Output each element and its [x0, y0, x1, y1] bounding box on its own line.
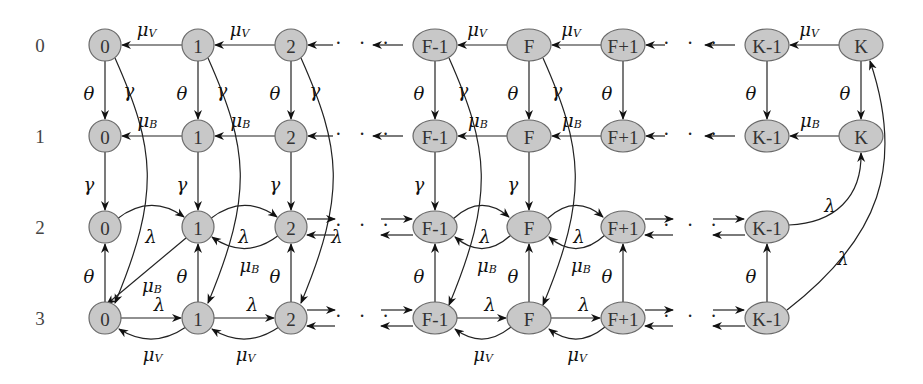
rate-label-mu-v: μV: [236, 344, 257, 365]
rate-label-lambda: λ: [246, 294, 258, 315]
rate-label-theta: θ: [508, 266, 519, 287]
state-node-0-kminus1: K-1: [745, 29, 789, 61]
rate-label-theta: θ: [177, 266, 188, 287]
state-node-3-fplus1: F+1: [601, 302, 645, 334]
state-node-2-fplus1: F+1: [601, 211, 645, 243]
node-label: 1: [193, 127, 203, 148]
node-label: F: [524, 309, 535, 330]
edge-mu-v-row3: [455, 327, 511, 339]
rate-label-mu-v: μV: [143, 344, 164, 365]
nodes-layer: 012F-1FF+1K-1K012F-1FF+1K-1K012F-1FF+1K-…: [89, 29, 883, 334]
row-label-1: 1: [35, 126, 45, 147]
rate-label-theta: θ: [84, 83, 95, 104]
state-node-2-2: 2: [275, 211, 307, 243]
node-label: K-1: [752, 36, 782, 57]
state-node-3-2: 2: [275, 302, 307, 334]
node-label: F+1: [608, 218, 639, 239]
edge-mu-v-row3: [549, 327, 605, 339]
rate-label-mu_V: μV: [561, 19, 582, 40]
node-label: 0: [100, 127, 110, 148]
state-node-0-k: K: [839, 29, 883, 61]
rate-label-mu_B: μB: [562, 110, 582, 131]
node-label: 1: [193, 218, 203, 239]
edge-mu-v-row3: [212, 327, 279, 339]
node-label: F-1: [422, 36, 448, 57]
node-label: 2: [286, 127, 296, 148]
state-node-2-kminus1: K-1: [745, 211, 789, 243]
state-diagram: 012F-1FF+1K-1K012F-1FF+1K-1K012F-1FF+1K-…: [0, 0, 923, 384]
rate-label-mu-b: μB: [571, 255, 591, 276]
rate-label-lambda: λ: [577, 294, 589, 315]
rate-label-gamma: γ: [270, 174, 281, 195]
rate-label-theta: θ: [746, 83, 757, 104]
edge-lambda-row2: [453, 205, 509, 219]
node-label: F-1: [422, 127, 448, 148]
rate-label-gamma: γ: [508, 174, 519, 195]
rate-label-mu_V: μV: [230, 19, 251, 40]
node-label: K-1: [752, 218, 782, 239]
node-label: F: [524, 218, 535, 239]
rate-label-lambda: λ: [572, 226, 584, 247]
rate-label-mu_V: μV: [137, 19, 158, 40]
rate-label-theta: θ: [840, 83, 851, 104]
node-label: K-1: [752, 309, 782, 330]
rate-label-theta: θ: [414, 83, 425, 104]
rate-label-theta: θ: [84, 266, 95, 287]
rate-label-theta: θ: [177, 83, 188, 104]
state-node-1-0: 0: [89, 120, 121, 152]
ellipsis-row2: · · ·: [663, 214, 723, 236]
rate-label-lambda: λ: [153, 294, 165, 315]
rate-label-mu-b: μB: [142, 275, 162, 296]
rate-label-theta: θ: [602, 266, 613, 287]
rate-label-lambda: λ: [237, 226, 249, 247]
node-label: 2: [286, 309, 296, 330]
rate-label-gamma: γ: [84, 174, 95, 195]
state-node-0-0: 0: [89, 29, 121, 61]
rate-label-gamma: γ: [177, 174, 188, 195]
node-label: F+1: [608, 127, 639, 148]
state-node-0-fminus1: F-1: [413, 29, 457, 61]
state-node-1-1: 1: [182, 120, 214, 152]
state-node-3-fminus1: F-1: [413, 302, 457, 334]
state-node-3-1: 1: [182, 302, 214, 334]
state-node-1-f: F: [507, 120, 551, 152]
rate-label-lambda: λ: [144, 226, 156, 247]
rate-label-gamma: γ: [310, 80, 321, 101]
ellipsis-row3: · · ·: [663, 305, 723, 327]
rate-label-theta: θ: [508, 83, 519, 104]
ellipsis-row3: · · ·: [335, 305, 395, 327]
node-label: F: [524, 127, 535, 148]
rate-label-lambda: λ: [478, 226, 490, 247]
node-label: F+1: [608, 36, 639, 57]
node-label: K-1: [752, 127, 782, 148]
node-label: F+1: [608, 309, 639, 330]
rate-label-gamma: γ: [458, 80, 469, 101]
state-node-3-kminus1: K-1: [745, 302, 789, 334]
state-node-1-kminus1: K-1: [745, 120, 789, 152]
node-label: 2: [286, 36, 296, 57]
node-label: 2: [286, 218, 296, 239]
node-label: 0: [100, 218, 110, 239]
rate-label-mu-v: μV: [473, 344, 494, 365]
edge-lambda-row2: [547, 205, 603, 219]
state-node-2-0: 0: [89, 211, 121, 243]
ellipsis-row0: · · ·: [335, 32, 395, 54]
ellipsis-row1: · · ·: [663, 123, 723, 145]
state-node-2-1: 1: [182, 211, 214, 243]
ellipsis-row1: · · ·: [335, 123, 395, 145]
rate-label-mu_B: μB: [800, 110, 820, 131]
ellipsis-row0: · · ·: [663, 32, 723, 54]
node-label: K: [854, 36, 868, 57]
node-label: 0: [100, 36, 110, 57]
state-node-1-k: K: [839, 120, 883, 152]
state-node-0-fplus1: F+1: [601, 29, 645, 61]
edge-lambda-row2: [117, 205, 184, 219]
edge-lambda-row2: [210, 205, 277, 219]
node-label: 0: [100, 309, 110, 330]
node-label: F: [524, 36, 535, 57]
rate-label-gamma: γ: [217, 80, 228, 101]
rate-label-mu_B: μB: [231, 110, 251, 131]
state-node-3-f: F: [507, 302, 551, 334]
node-label: 1: [193, 309, 203, 330]
state-node-2-f: F: [507, 211, 551, 243]
